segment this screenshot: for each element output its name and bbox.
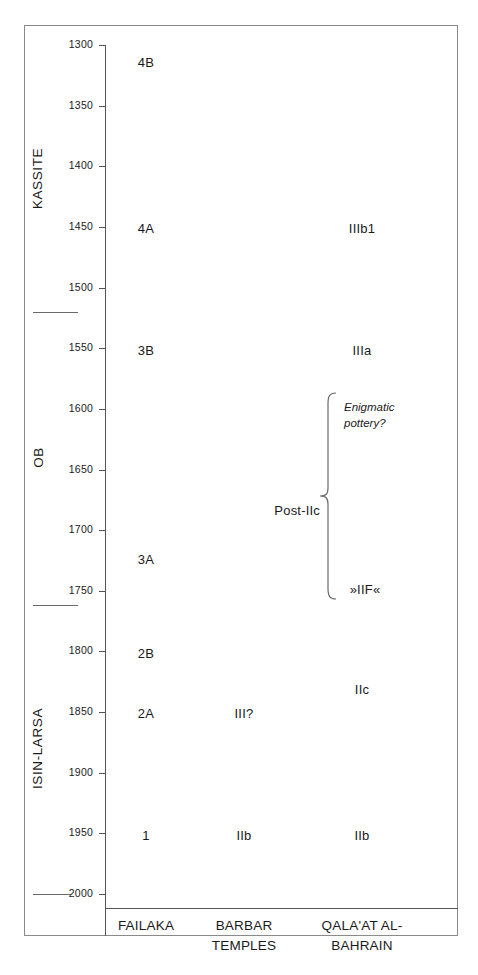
entry-failaka-3b: 3B (138, 343, 154, 357)
axis-tick-label: 1650 (45, 464, 93, 475)
column-header-line: TEMPLES (212, 936, 276, 956)
entry-qalaat-iif: »IIF« (350, 583, 381, 597)
axis-tick (99, 833, 106, 834)
axis-tick-label: 1450 (45, 221, 93, 232)
enigmatic-pottery-note-line1: Enigmatic (344, 401, 395, 413)
axis-tick-label: 1350 (45, 100, 93, 111)
entry-failaka-4b: 4B (138, 56, 154, 70)
axis-tick (99, 409, 106, 410)
period-band-label-text: ISIN-LARSA (31, 708, 46, 789)
axis-tick-label: 1750 (45, 585, 93, 596)
header-separator-rule (105, 908, 458, 909)
post-iic-brace-icon (318, 392, 340, 600)
entry-failaka-4a: 4A (138, 222, 154, 236)
period-band-label-text: KASSITE (31, 148, 46, 209)
entry-qalaat-iiib1: IIIb1 (349, 222, 375, 236)
axis-tick (99, 470, 106, 471)
axis-tick (99, 348, 106, 349)
axis-tick-label: 1600 (45, 403, 93, 414)
chronology-chart: 1300135014001450150015501600165017001750… (0, 0, 478, 975)
post-iic-label: Post-IIc (274, 503, 320, 518)
enigmatic-pottery-note: Enigmatic pottery? (344, 400, 395, 431)
entry-failaka-3a: 3A (138, 553, 154, 567)
entry-qalaat-iiia: IIIa (353, 343, 372, 357)
axis-tick (99, 773, 106, 774)
column-header-line: BARBAR (212, 916, 276, 936)
axis-tick-label: 1300 (45, 39, 93, 50)
entry-failaka-1: 1 (142, 829, 149, 843)
column-header-line: BAHRAIN (322, 936, 403, 956)
axis-tick-label: 1950 (45, 827, 93, 838)
axis-tick-label: 1400 (45, 160, 93, 171)
axis-tick-label: 1850 (45, 706, 93, 717)
axis-tick (99, 166, 106, 167)
axis-tick-label: 1500 (45, 282, 93, 293)
axis-tick (99, 651, 106, 652)
entry-barbar-iib: IIb (236, 829, 251, 843)
enigmatic-pottery-note-line2: pottery? (344, 417, 386, 429)
axis-tick (99, 45, 106, 46)
entry-qalaat-iic: IIc (355, 683, 369, 697)
axis-tick (99, 106, 106, 107)
column-header-barbar: BARBARTEMPLES (212, 916, 276, 955)
entry-barbar-iii: III? (235, 707, 254, 721)
axis-tick (99, 227, 106, 228)
axis-tick-label: 1700 (45, 524, 93, 535)
axis-tick (99, 894, 106, 895)
period-band-divider (33, 312, 78, 313)
period-band-label-text: OB (31, 447, 46, 468)
header-column-divider (105, 894, 106, 936)
column-header-line: QALA'AT AL- (322, 916, 403, 936)
axis-tick-label: 1800 (45, 645, 93, 656)
axis-tick (99, 591, 106, 592)
entry-failaka-2a: 2A (138, 707, 154, 721)
axis-tick-label: 1550 (45, 342, 93, 353)
axis-tick (99, 288, 106, 289)
axis-tick-label: 2000 (45, 888, 93, 899)
axis-tick-label: 1900 (45, 767, 93, 778)
column-header-line: FAILAKA (118, 916, 174, 936)
entry-qalaat-iib: IIb (354, 829, 369, 843)
column-header-qalaat: QALA'AT AL-BAHRAIN (322, 916, 403, 955)
column-header-failaka: FAILAKA (118, 916, 174, 936)
entry-failaka-2b: 2B (138, 647, 154, 661)
axis-tick (99, 712, 106, 713)
period-band-divider (33, 605, 78, 606)
axis-tick (99, 530, 106, 531)
